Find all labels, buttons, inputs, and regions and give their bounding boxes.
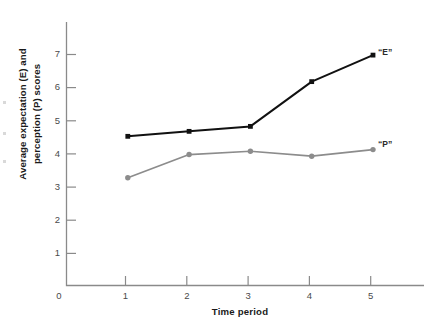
origin-label: 0: [49, 290, 69, 301]
y-axis-ticks: [67, 55, 77, 254]
axis-lines: [67, 22, 425, 286]
x-tick-label-1: 1: [116, 290, 136, 301]
series-label-p: “P”: [378, 139, 392, 149]
x-tick-label-5: 5: [361, 290, 381, 301]
scan-artifact: [3, 160, 6, 163]
scan-artifact: [3, 101, 6, 104]
x-axis-ticks: [126, 276, 371, 286]
x-tick-label-4: 4: [299, 290, 319, 301]
y-axis-title-line1: Average expectation (E) and: [16, 19, 30, 209]
x-tick-label-3: 3: [238, 290, 258, 301]
scan-artifact: [3, 132, 6, 135]
x-tick-label-2: 2: [177, 290, 197, 301]
y-tick-label-2: 2: [42, 214, 60, 225]
x-axis-title: Time period: [175, 306, 305, 317]
series-e-markers: [125, 53, 375, 139]
series-label-e: “E”: [378, 47, 392, 57]
y-axis-title-line2: perception (P) scores: [30, 19, 44, 209]
plot-area: [0, 0, 430, 329]
y-tick-label-1: 1: [42, 247, 60, 258]
y-axis-title: Average expectation (E) and perception (…: [16, 19, 50, 209]
line-chart: 1 2 3 4 5 6 7 0 1 2 3 4 5 “E” “P” Averag…: [0, 0, 430, 329]
